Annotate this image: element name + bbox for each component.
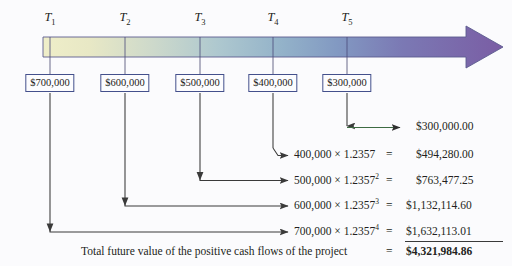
calc-amount-t5: $300,000.00 <box>416 121 474 133</box>
calc-expression-t4: 400,000 × 1.2357 <box>294 149 375 161</box>
calc-equals-t2: = <box>386 200 393 212</box>
timeline-diagram: T1 T2 T3 T4 T5 $700,000 $600,000 $500,00… <box>0 0 512 266</box>
flow-arrow-t3 <box>197 93 288 181</box>
period-label-t1: T1 <box>44 10 55 27</box>
calc-equals-t4: = <box>386 149 393 161</box>
calc-amount-t1: $1,632,113.01 <box>406 226 472 238</box>
calc-equals-t3: = <box>386 175 393 187</box>
period-label-t3: T3 <box>194 10 205 27</box>
calc-amount-t3: $763,477.25 <box>416 175 474 187</box>
cash-flow-box-t5: $300,000 <box>322 74 371 92</box>
flow-arrow-t1 <box>47 93 288 232</box>
cash-flow-box-t1: $700,000 <box>25 74 74 92</box>
box-connector-stubs <box>50 57 347 74</box>
flow-arrow-t5 <box>347 93 400 128</box>
flow-arrow-t2 <box>122 93 288 206</box>
total-equals: = <box>386 246 393 258</box>
total-label: Total future value of the positive cash … <box>81 246 347 258</box>
cash-flow-box-t3: $500,000 <box>175 74 224 92</box>
sum-rule <box>405 241 503 242</box>
total-amount: $4,321,984.86 <box>406 246 472 258</box>
calc-expression-t3: 500,000 × 1.23572 <box>294 175 379 187</box>
calc-amount-t2: $1,132,114.60 <box>406 200 472 212</box>
cash-flow-box-t4: $400,000 <box>248 74 297 92</box>
cash-flow-box-t2: $600,000 <box>100 74 149 92</box>
calc-expression-t1: 700,000 × 1.23574 <box>294 226 379 238</box>
calc-amount-t4: $494,280.00 <box>416 149 474 161</box>
calc-expression-t2: 600,000 × 1.23573 <box>294 200 379 212</box>
calc-equals-t1: = <box>386 226 393 238</box>
period-label-t5: T5 <box>341 10 352 27</box>
flow-arrow-t4 <box>273 93 288 156</box>
period-label-t4: T4 <box>267 10 278 27</box>
period-label-t2: T2 <box>119 10 130 27</box>
